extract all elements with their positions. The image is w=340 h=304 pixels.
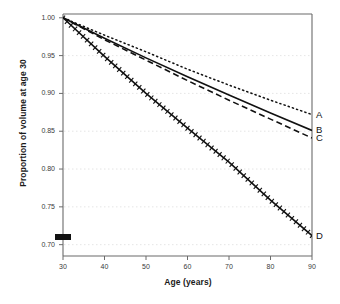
- x-tick-label: 60: [176, 263, 200, 270]
- plot-area: [0, 0, 340, 304]
- x-axis-ticks: [63, 256, 312, 260]
- y-axis-ticks: [59, 18, 63, 245]
- y-tick-label: 0.85: [29, 127, 55, 134]
- series-label-d: D: [316, 230, 323, 241]
- x-tick-label: 40: [93, 263, 117, 270]
- y-tick-label: 0.90: [29, 89, 55, 96]
- y-axis-title: Proportion of volume at age 30: [18, 38, 28, 208]
- x-tick-label: 50: [134, 263, 158, 270]
- chart-annotations: [55, 234, 71, 240]
- chart-figure: Proportion of volume at age 30 Age (year…: [0, 0, 340, 304]
- x-tick-label: 30: [51, 263, 75, 270]
- y-tick-label: 0.80: [29, 165, 55, 172]
- x-tick-label: 90: [300, 263, 324, 270]
- data-curves: [61, 16, 314, 238]
- x-axis-title: Age (years): [63, 277, 313, 287]
- series-label-c: C: [316, 132, 323, 143]
- y-tick-label: 1.00: [29, 14, 55, 21]
- x-tick-label: 80: [259, 263, 283, 270]
- y-tick-label: 0.70: [29, 241, 55, 248]
- y-tick-label: 0.95: [29, 52, 55, 59]
- y-tick-label: 0.75: [29, 203, 55, 210]
- gridlines: [64, 56, 311, 245]
- series-label-a: A: [316, 109, 322, 120]
- x-tick-label: 70: [217, 263, 241, 270]
